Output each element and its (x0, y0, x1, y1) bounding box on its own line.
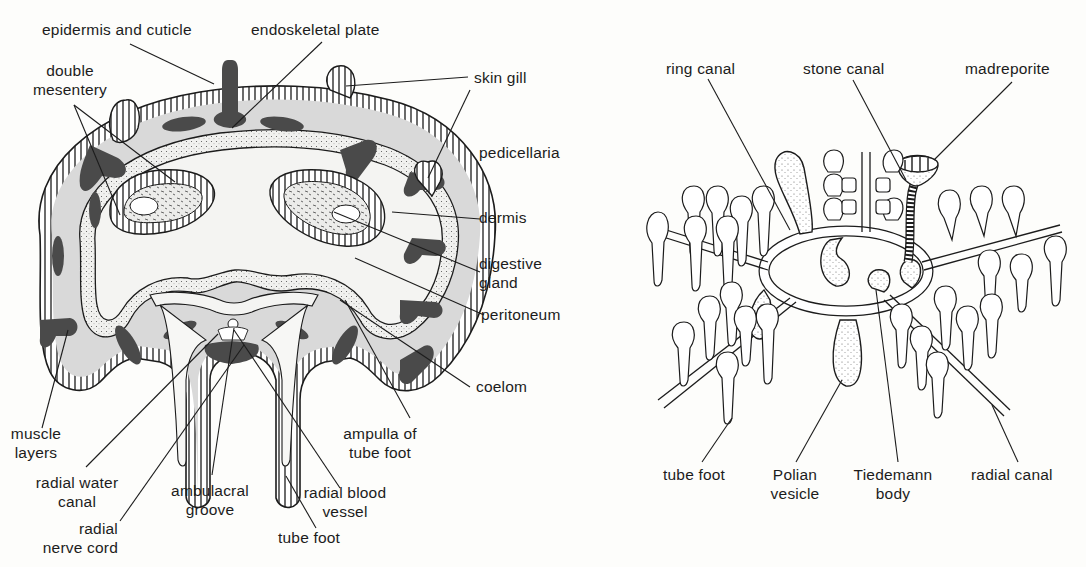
label-dermis: dermis (479, 208, 527, 227)
label-tiedemann-body: Tiedemann body (848, 465, 938, 503)
label-ambulacral-groove: ambulacral groove (160, 481, 260, 519)
label-stone-canal: stone canal (803, 59, 884, 78)
label-pedicellaria: pedicellaria (479, 143, 560, 162)
label-tube-foot-left: tube foot (278, 528, 340, 547)
label-coelom: coelom (476, 377, 527, 396)
label-polian-vesicle: Polian vesicle (760, 465, 830, 503)
label-ring-canal: ring canal (666, 59, 735, 78)
label-muscle-layers: muscle layers (6, 424, 66, 462)
label-peritoneum: peritoneum (481, 305, 561, 324)
label-digestive-gland: digestive gland (479, 254, 542, 292)
tube-feet (647, 150, 1066, 424)
label-radial-blood-vessel: radial blood vessel (290, 483, 400, 521)
label-radial-nerve-cord: radial nerve cord (28, 519, 118, 557)
label-endoskeletal-plate: endoskeletal plate (251, 20, 380, 39)
diagram-canvas: epidermis and cuticle endoskeletal plate… (0, 0, 1086, 567)
label-radial-canal: radial canal (971, 465, 1053, 484)
label-ampulla-of-tube-foot: ampulla of tube foot (330, 424, 430, 462)
label-radial-water-canal: radial water canal (22, 473, 132, 511)
label-skin-gill: skin gill (474, 68, 527, 87)
label-double-mesentery: double mesentery (20, 61, 120, 99)
label-epidermis-and-cuticle: epidermis and cuticle (42, 20, 192, 39)
label-tube-foot-right: tube foot (663, 465, 725, 484)
label-madreporite: madreporite (965, 59, 1050, 78)
